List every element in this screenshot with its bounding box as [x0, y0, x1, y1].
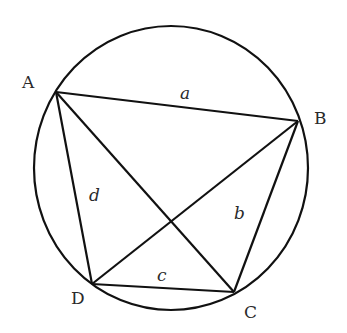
vertex-label-d: D	[71, 288, 85, 308]
side-labels: a b c d	[89, 83, 245, 285]
vertex-label-a: A	[21, 72, 35, 92]
vertex-label-b: B	[314, 108, 327, 128]
circumcircle	[34, 26, 308, 310]
side-a-AB	[56, 92, 298, 121]
side-label-b: b	[234, 203, 245, 223]
side-c-CD	[92, 284, 234, 292]
vertex-label-c: C	[244, 302, 257, 322]
side-d-DA	[56, 92, 92, 284]
side-label-c: c	[157, 265, 167, 285]
cyclic-quadrilateral-diagram: A B C D a b c d	[0, 0, 347, 333]
side-label-a: a	[180, 83, 190, 103]
vertex-labels: A B C D	[21, 72, 327, 322]
side-label-d: d	[89, 185, 100, 205]
